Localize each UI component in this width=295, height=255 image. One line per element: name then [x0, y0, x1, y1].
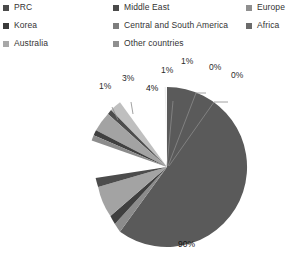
legend-swatch-prc: [3, 5, 9, 11]
data-label-middle-east: 1%: [181, 57, 193, 66]
legend-label-other-countries: Other countries: [124, 39, 184, 48]
legend-swatch-other-countries: [113, 41, 119, 47]
legend-label-central-south-america: Central and South America: [124, 21, 228, 30]
legend-label-europe: Europe: [257, 3, 285, 12]
legend-item-australia[interactable]: Australia: [3, 39, 48, 48]
data-label-other-countries: 3%: [122, 74, 134, 83]
legend-label-prc: PRC: [14, 3, 32, 12]
legend-label-korea: Korea: [14, 21, 37, 30]
pie-chart-figure: PRC Middle East Europe Korea Central and…: [0, 0, 295, 255]
data-label-australia: 1%: [99, 82, 111, 91]
legend-swatch-europe: [246, 5, 252, 11]
legend-swatch-africa: [246, 23, 252, 29]
legend-item-prc[interactable]: PRC: [3, 3, 32, 12]
legend-swatch-middle-east: [113, 5, 119, 11]
legend-item-middle-east[interactable]: Middle East: [113, 3, 170, 12]
data-label-korea: 1%: [161, 66, 173, 75]
leader-line-other-countries: [131, 102, 133, 114]
data-label-prc: 90%: [178, 240, 195, 249]
legend-item-africa[interactable]: Africa: [246, 21, 279, 30]
data-label-africa: 0%: [231, 71, 243, 80]
legend-item-central-south-america[interactable]: Central and South America: [113, 21, 228, 30]
legend-item-korea[interactable]: Korea: [3, 21, 37, 30]
legend-swatch-australia: [3, 41, 9, 47]
pie-plot-area: 1% 3% 4% 1% 1% 0% 0% 90%: [0, 52, 295, 255]
legend-item-other-countries[interactable]: Other countries: [113, 39, 184, 48]
pie-slice-gap-highlight: [165, 87, 167, 167]
pie-slice-prc[interactable]: [120, 87, 247, 247]
legend-label-africa: Africa: [257, 21, 279, 30]
data-label-central-south-america: 4%: [146, 84, 158, 93]
legend-swatch-central-south-america: [113, 23, 119, 29]
legend-label-middle-east: Middle East: [124, 3, 170, 12]
legend-item-europe[interactable]: Europe: [246, 3, 285, 12]
legend-label-australia: Australia: [14, 39, 48, 48]
chart-legend: PRC Middle East Europe Korea Central and…: [0, 0, 295, 52]
data-label-europe: 0%: [209, 63, 221, 72]
legend-swatch-korea: [3, 23, 9, 29]
